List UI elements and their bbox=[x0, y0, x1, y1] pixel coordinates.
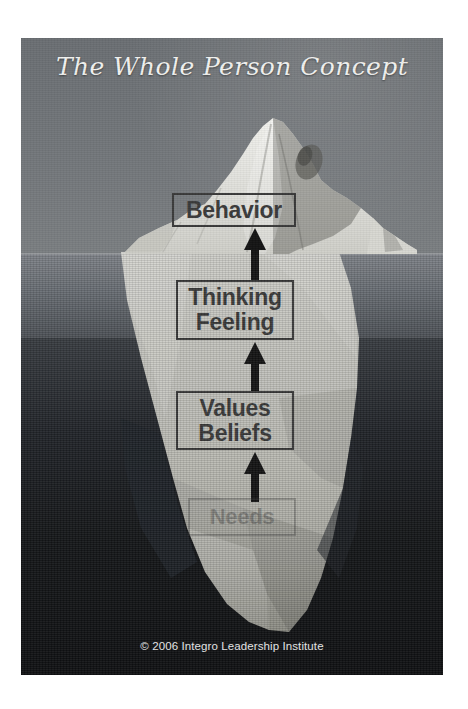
copyright-notice: © 2006 Integro Leadership Institute bbox=[21, 640, 443, 652]
poster-image: The Whole Person Concept Behavior Thinki… bbox=[21, 38, 443, 675]
sea-grain-overlay bbox=[21, 254, 443, 675]
